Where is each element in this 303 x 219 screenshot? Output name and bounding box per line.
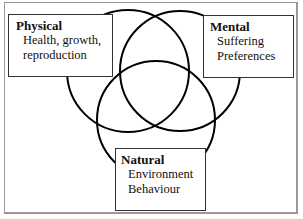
physical-line-2: reproduction [16,48,112,63]
physical-line-1: Health, growth, [16,33,112,48]
physical-title: Physical [16,18,112,33]
natural-line-2: Behaviour [121,182,205,197]
natural-line-1: Environment [121,167,205,182]
mental-title: Mental [210,19,293,34]
physical-box: Physical Health, growth, reproduction [8,14,113,77]
mental-line-2: Preferences [210,49,293,64]
mental-line-1: Suffering [210,34,293,49]
mental-box: Mental Suffering Preferences [203,15,294,78]
natural-box: Natural Environment Behaviour [115,148,206,211]
natural-title: Natural [121,152,205,167]
